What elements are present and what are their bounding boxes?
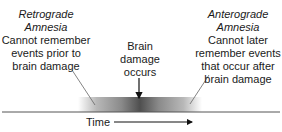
retrograde-amnesia-label: Retrograde Amnesia Cannot remember event… (0, 8, 92, 73)
center-line3: occurs (108, 66, 172, 79)
time-axis-label: Time (86, 116, 110, 129)
brain-damage-gradient-band (78, 97, 202, 112)
brain-damage-occurs-label: Brain damage occurs (108, 40, 172, 79)
retrograde-title-line2: Amnesia (0, 21, 92, 34)
retrograde-desc-line2: events prior to (0, 47, 92, 60)
anterograde-desc-line1: Cannot later (192, 34, 282, 47)
center-line2: damage (108, 53, 172, 66)
anterograde-title-line2: Amnesia (192, 21, 282, 34)
retrograde-title-line1: Retrograde (0, 8, 92, 21)
anterograde-amnesia-label: Anterograde Amnesia Cannot later remembe… (192, 8, 282, 86)
anterograde-desc-line3: that occur after (192, 60, 282, 73)
anterograde-title-line1: Anterograde (192, 8, 282, 21)
center-line1: Brain (108, 40, 172, 53)
anterograde-desc-line4: brain damage (192, 73, 282, 86)
retrograde-desc-line1: Cannot remember (0, 34, 92, 47)
anterograde-desc-line2: remember events (192, 47, 282, 60)
retrograde-desc-line3: brain damage (0, 60, 92, 73)
